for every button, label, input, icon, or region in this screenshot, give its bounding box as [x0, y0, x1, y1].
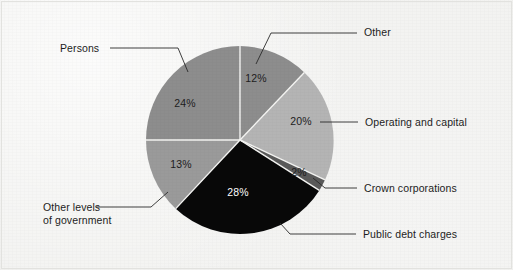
callout-label-other: Other	[364, 26, 391, 38]
callout-label-other-levels-of-government-line1: Other levels	[43, 201, 100, 213]
pie-slice-persons[interactable]	[146, 46, 240, 140]
leader-line-public-debt-charges	[280, 223, 356, 234]
pie-chart-svg: 12% 20% 2% 28% 13% 24% Other Op	[0, 0, 513, 270]
callout-label-operating-and-capital: Operating and capital	[365, 116, 467, 128]
callout-label-persons: Persons	[60, 42, 99, 54]
callout-label-public-debt-charges: Public debt charges	[363, 228, 457, 240]
value-label-other: 12%	[245, 72, 267, 84]
leader-line-persons	[110, 48, 188, 72]
value-label-crown-corporations: 2%	[291, 166, 307, 178]
value-label-persons: 24%	[174, 97, 196, 109]
leader-line-other-levels-of-government	[96, 192, 168, 207]
value-label-other-levels-of-government: 13%	[170, 158, 192, 170]
pie-chart-figure: 12% 20% 2% 28% 13% 24% Other Op	[0, 0, 513, 270]
value-label-public-debt-charges: 28%	[227, 186, 249, 198]
value-label-operating-and-capital: 20%	[290, 115, 312, 127]
callout-label-crown-corporations: Crown corporations	[364, 182, 457, 194]
callout-label-other-levels-of-government-line2: of government	[43, 214, 111, 226]
